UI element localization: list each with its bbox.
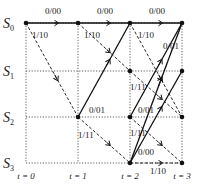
edges bbox=[26, 23, 182, 163]
edge-label: 1/10 bbox=[150, 166, 167, 176]
node bbox=[128, 21, 133, 26]
time-label-3: t = 3 bbox=[173, 171, 191, 181]
arrow-icon bbox=[107, 61, 110, 66]
state-label-s0: S0 bbox=[3, 16, 14, 33]
arrow-icon bbox=[107, 142, 110, 144]
state-label-s3: S3 bbox=[3, 156, 14, 173]
node bbox=[180, 21, 185, 26]
trellis-diagram: 0/001/100/001/100/011/110/001/101/110/01… bbox=[0, 0, 202, 190]
node bbox=[180, 69, 185, 74]
edge-label: 0/00 bbox=[45, 6, 62, 16]
node bbox=[128, 161, 133, 166]
time-label-1: t = 1 bbox=[69, 171, 87, 181]
arrow-icon bbox=[55, 75, 58, 80]
node bbox=[76, 115, 81, 120]
edge-label: 1/11 bbox=[130, 128, 146, 138]
labels: 0/001/100/001/100/011/110/001/101/110/01… bbox=[3, 6, 191, 181]
edge-label: 0/01 bbox=[138, 105, 154, 115]
state-label-s2: S2 bbox=[3, 110, 14, 127]
node bbox=[76, 21, 81, 26]
node bbox=[180, 161, 185, 166]
arrow-icon bbox=[159, 108, 162, 113]
edge-label: 1/10 bbox=[84, 30, 101, 40]
arrow-icon bbox=[107, 49, 110, 51]
edge-label: 0/01 bbox=[163, 41, 179, 51]
edge-label: 0/00 bbox=[97, 6, 114, 16]
edge-label: 0/01 bbox=[89, 105, 105, 115]
edge-5 bbox=[78, 117, 130, 163]
time-label-0: t = 0 bbox=[17, 171, 35, 181]
edge-label: 1/11 bbox=[130, 82, 146, 92]
arrow-icon bbox=[159, 142, 162, 144]
arrow-icon bbox=[159, 61, 162, 66]
edge-label: 0/00 bbox=[149, 6, 166, 16]
node bbox=[128, 115, 133, 120]
node bbox=[128, 69, 133, 74]
edge-label: 1/11 bbox=[78, 130, 94, 140]
node bbox=[180, 115, 185, 120]
arrow-icon bbox=[159, 79, 162, 86]
time-label-2: t = 2 bbox=[121, 171, 139, 181]
node bbox=[24, 21, 29, 26]
state-label-s1: S1 bbox=[3, 64, 14, 81]
edge-label: 0/00 bbox=[138, 147, 155, 157]
arrow-icon bbox=[159, 96, 162, 98]
edge-label: 1/10 bbox=[138, 30, 155, 40]
edge-label: 1/10 bbox=[32, 30, 49, 40]
